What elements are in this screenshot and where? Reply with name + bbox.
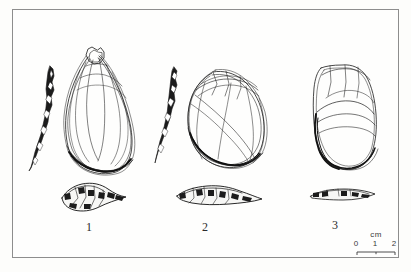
scale-rule-graphic (356, 250, 396, 256)
scale-tick-1: 1 (371, 239, 379, 248)
figure-label-2: 2 (193, 220, 217, 235)
illustration-plate: 1 2 3 cm 0 1 2 (0, 0, 411, 272)
scale-tick-0: 0 (352, 239, 360, 248)
figure-label-3: 3 (323, 218, 347, 233)
figure-label-1: 1 (77, 220, 101, 235)
scale-bar: cm 0 1 2 (352, 230, 400, 260)
scale-unit-label: cm (352, 230, 400, 239)
scale-tick-2: 2 (390, 239, 398, 248)
